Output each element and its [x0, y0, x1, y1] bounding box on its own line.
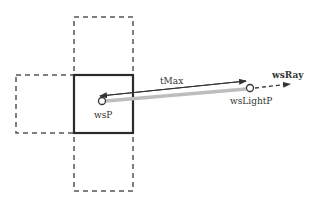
wslightp-point-icon — [247, 85, 254, 92]
bottom-dashed-cell — [74, 133, 133, 191]
wsray-label: wsRay — [271, 70, 304, 80]
wsp-point-icon — [99, 98, 106, 105]
top-dashed-cell — [74, 17, 133, 75]
tmax-label: tMax — [160, 76, 183, 86]
diagram-canvas: tMax wsRay wsP wsLightP — [0, 0, 310, 204]
wslightp-label: wsLightP — [230, 96, 272, 106]
wsp-label: wsP — [94, 110, 112, 120]
left-dashed-cell — [16, 75, 74, 133]
ray-continuation — [255, 84, 290, 88]
light-segment — [106, 89, 246, 101]
